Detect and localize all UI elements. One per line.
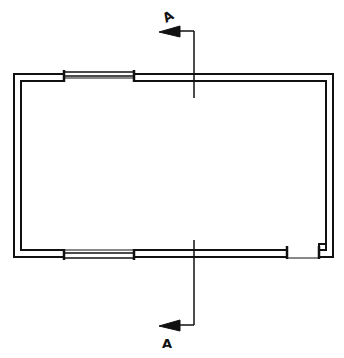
outer-wall	[14, 74, 333, 257]
window-bottom	[64, 249, 134, 260]
arrow-left-icon	[159, 26, 180, 37]
section-cut-bottom	[159, 240, 194, 331]
section-cut-top	[159, 26, 194, 98]
door-opening	[287, 244, 326, 259]
window-top	[64, 70, 134, 82]
floor-plan-drawing	[0, 0, 344, 358]
inner-wall	[21, 81, 326, 250]
arrow-left-icon	[159, 320, 180, 331]
section-label-bottom: A	[162, 336, 172, 351]
